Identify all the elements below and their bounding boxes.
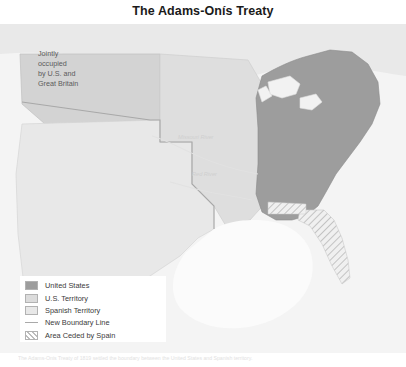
legend-label-spanish-territory: Spanish Territory	[45, 306, 100, 315]
label-jointly-occupied-line-1: Jointly	[38, 49, 59, 58]
legend-swatch-area-ceded-by-spain	[25, 331, 38, 340]
map-figure-page: The Adams-Onís Treaty	[0, 0, 406, 367]
map-legend: United States U.S. Territory Spanish Ter…	[20, 276, 166, 342]
legend-swatch-us-territory	[25, 294, 38, 303]
page-title: The Adams-Onís Treaty	[0, 3, 406, 19]
legend-swatch-spanish-territory	[25, 306, 38, 315]
figure-caption: The Adams-Onis Treaty of 1819 settled th…	[18, 355, 393, 362]
label-jointly-occupied-line-2: occupied	[38, 59, 67, 68]
legend-swatch-united-states	[25, 281, 38, 290]
label-river-missouri: Missouri River	[178, 134, 215, 140]
label-river-red: Red River	[192, 171, 218, 177]
legend-item-us-territory: U.S. Territory	[25, 292, 162, 304]
legend-item-new-boundary-line: New Boundary Line	[25, 317, 162, 329]
legend-label-new-boundary-line: New Boundary Line	[45, 318, 110, 327]
legend-item-area-ceded-by-spain: Area Ceded by Spain	[25, 330, 162, 342]
legend-item-united-states: United States	[25, 280, 162, 292]
legend-label-us-territory: U.S. Territory	[45, 294, 88, 303]
legend-item-spanish-territory: Spanish Territory	[25, 305, 162, 317]
legend-label-united-states: United States	[45, 281, 89, 290]
label-jointly-occupied-line-3: by U.S. and	[38, 69, 76, 78]
legend-swatch-new-boundary-line	[25, 318, 38, 327]
label-jointly-occupied-line-4: Great Britain	[38, 79, 78, 88]
area-ceded-strip	[268, 202, 306, 214]
legend-label-area-ceded-by-spain: Area Ceded by Spain	[45, 331, 115, 340]
